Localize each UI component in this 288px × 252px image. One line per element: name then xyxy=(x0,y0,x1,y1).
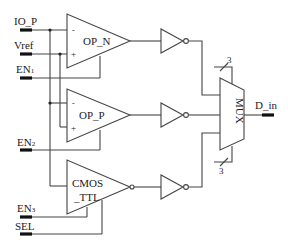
bus-width-bottom: 3 xyxy=(219,166,224,176)
circuit-diagram: IO_P Vref EN1 EN2 EN3 SEL xyxy=(0,0,288,252)
inverter-3 xyxy=(161,175,188,199)
cmos-ttl-buffer: CMOS _TTL xyxy=(67,160,134,214)
cmos-ttl-label-2: _TTL xyxy=(73,191,100,203)
io-p-label: IO_P xyxy=(14,15,37,27)
op-p-plus: + xyxy=(71,123,76,133)
en3-label: EN3 xyxy=(17,202,36,214)
op-n-minus: - xyxy=(72,26,75,35)
output-d-in: D_in xyxy=(255,99,278,115)
op-p-label: OP_P xyxy=(79,109,105,121)
cmos-ttl-label-1: CMOS xyxy=(72,177,103,189)
input-vref: Vref xyxy=(14,39,34,54)
mux-label: MUX xyxy=(234,98,246,124)
input-sel: SEL xyxy=(15,220,35,234)
input-en3: EN3 xyxy=(17,202,36,217)
op-n-comparator: - + OP_N xyxy=(67,14,130,68)
input-io-p: IO_P xyxy=(14,15,37,30)
op-p-comparator: - + OP_P xyxy=(67,89,130,142)
mux: MUX xyxy=(220,78,246,150)
op-n-plus: + xyxy=(71,49,76,59)
en2-label: EN2 xyxy=(17,136,36,148)
d-in-label: D_in xyxy=(255,99,278,111)
inverter-2 xyxy=(161,103,188,127)
op-p-minus: - xyxy=(72,99,75,108)
inverter-1 xyxy=(161,29,188,53)
bus-width-top: 3 xyxy=(227,55,232,65)
op-n-label: OP_N xyxy=(83,35,111,47)
vref-label: Vref xyxy=(14,39,34,51)
input-en2: EN2 xyxy=(17,136,36,150)
en1-label: EN1 xyxy=(16,63,35,75)
sel-label: SEL xyxy=(15,220,35,232)
input-en1: EN1 xyxy=(16,63,35,78)
